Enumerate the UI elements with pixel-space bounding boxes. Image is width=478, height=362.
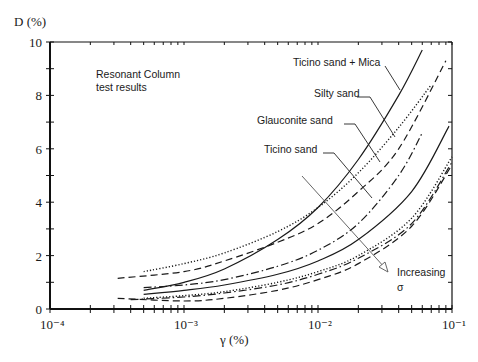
curve-labels: Ticino sand + Mica Silty sand Glauconite… bbox=[257, 56, 381, 155]
annotation-title-line2: test results bbox=[96, 81, 147, 93]
leader-lines bbox=[323, 66, 400, 198]
y-tick-label: 6 bbox=[36, 142, 43, 157]
x-tick-label: 10⁻² bbox=[308, 317, 332, 332]
label-silty-sand: Silty sand bbox=[314, 87, 360, 99]
y-tick-label: 4 bbox=[36, 195, 43, 210]
arrow-label-line1: Increasing bbox=[397, 266, 446, 278]
y-tick-label: 10 bbox=[29, 35, 42, 50]
x-tick-label: 10⁻⁴ bbox=[40, 317, 65, 332]
damping-ratio-chart: 10⁻⁴10⁻³10⁻²10⁻¹0246810 D (%) γ (%) Reso… bbox=[0, 0, 478, 362]
damping-curves bbox=[118, 50, 452, 301]
y-axis-title: D (%) bbox=[14, 14, 46, 29]
y-tick-label: 0 bbox=[36, 302, 43, 317]
curve-solid bbox=[144, 50, 423, 290]
curve-dashdot bbox=[144, 133, 423, 288]
label-ticino-mica: Ticino sand + Mica bbox=[293, 56, 381, 68]
x-tick-label: 10⁻³ bbox=[174, 317, 198, 332]
label-glauconite-sand: Glauconite sand bbox=[257, 114, 333, 126]
y-tick-label: 8 bbox=[36, 88, 43, 103]
curve-dashed bbox=[118, 61, 446, 279]
label-ticino-sand: Ticino sand bbox=[264, 143, 317, 155]
arrow-label-line2: σ bbox=[397, 281, 404, 293]
annotation-title-line1: Resonant Column bbox=[96, 68, 180, 80]
curve-dashdot bbox=[131, 162, 452, 300]
x-axis-title: γ (%) bbox=[219, 332, 248, 347]
increasing-sigma-arrow bbox=[302, 176, 388, 272]
x-tick-label: 10⁻¹ bbox=[442, 317, 466, 332]
y-tick-label: 2 bbox=[36, 249, 43, 264]
